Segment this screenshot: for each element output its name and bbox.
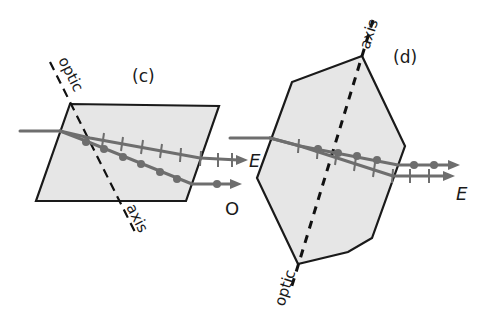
panel-c: (c) optic axis O bbox=[20, 54, 248, 236]
optic-label-c: optic bbox=[54, 54, 87, 95]
optic-label-d: optic bbox=[271, 267, 300, 308]
arrow-upper-d bbox=[448, 160, 460, 170]
arrow-e-c bbox=[236, 155, 248, 165]
crystal-parallelogram bbox=[36, 104, 219, 201]
o-ray-label-c: O bbox=[225, 198, 239, 219]
arrow-o-c bbox=[230, 179, 242, 189]
arrow-lower-d bbox=[443, 171, 455, 181]
e-ray-label-exit-d: E bbox=[456, 183, 468, 204]
birefringence-diagram: (c) optic axis O bbox=[0, 0, 488, 317]
crystal-hexagon bbox=[257, 56, 405, 264]
panel-label-c: (c) bbox=[132, 66, 155, 86]
e-ray-label-incoming-d: E bbox=[249, 150, 261, 171]
axis-label-c: axis bbox=[122, 201, 152, 236]
axis-label-d: axis bbox=[356, 17, 382, 51]
panel-label-d: (d) bbox=[393, 47, 417, 67]
panel-d: E E (d) axis optic bbox=[230, 17, 468, 308]
